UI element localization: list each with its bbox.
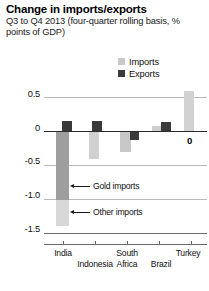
bar-indonesia-imports (89, 132, 99, 159)
legend-label-exports: Exports (129, 69, 159, 79)
legend-label-imports: Imports (129, 57, 159, 67)
x-label-brazil: Brazil (139, 259, 183, 269)
x-label-south: South (103, 248, 151, 258)
annotation-line-gold-imports (74, 186, 90, 187)
x-tick-brazil (159, 241, 160, 245)
chart-title: Change in imports/exports (6, 3, 206, 15)
x-label-india: India (39, 248, 87, 258)
annotation-label-gold-imports: Gold imports (93, 181, 139, 191)
bar-turkey-imports (184, 91, 194, 131)
x-tick-indonesia (95, 241, 96, 245)
y-tick-label-4: -1.5 (0, 224, 40, 234)
y-tick-label-3: -1.0 (0, 190, 40, 200)
x-tick-india (63, 241, 64, 245)
bar-indonesia-exports (92, 121, 102, 131)
bar-india-exports (62, 121, 72, 131)
gridline-0.5 (44, 97, 207, 98)
legend-swatch-imports (118, 58, 125, 65)
plot-area: 0 Gold imports Other imports (44, 88, 207, 230)
bar-india-imports-other (56, 200, 69, 226)
chart-subtitle: Q3 to Q4 2013 (four-quarter rolling basi… (6, 16, 202, 37)
y-tick-label-0: 0.5 (0, 89, 40, 99)
y-tick-label-1: 0 (0, 123, 40, 133)
gridline--1.5 (44, 233, 207, 234)
legend-swatch-exports (118, 70, 125, 77)
y-tick-label-2: -0.5 (0, 156, 40, 166)
bar-brazil-exports (161, 122, 171, 131)
legend-item-imports: Imports (118, 56, 206, 67)
annotation-label-other-imports: Other imports (93, 207, 142, 217)
x-tick-south-africa (127, 241, 128, 245)
x-axis-line (44, 244, 207, 245)
x-label-turkey: Turkey (167, 248, 209, 258)
x-tick-turkey (191, 241, 192, 245)
annotation-line-other-imports (74, 212, 90, 213)
chart-legend: Imports Exports (118, 56, 206, 80)
bar-india-imports-gold (56, 132, 69, 200)
chart-figure: Change in imports/exports Q3 to Q4 2013 … (0, 0, 209, 291)
bar-south-africa-exports (130, 132, 139, 140)
legend-item-exports: Exports (118, 68, 206, 79)
data-label-turkey-exports-zero: 0 (187, 135, 192, 146)
